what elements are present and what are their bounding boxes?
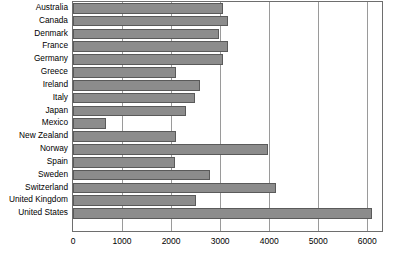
bar	[73, 106, 186, 117]
category-label: Sweden	[0, 168, 70, 181]
category-label: United Kingdom	[0, 193, 70, 206]
bar-row	[73, 92, 382, 105]
category-label: Norway	[0, 142, 70, 155]
x-tick-label: 3000	[211, 236, 230, 246]
bar	[73, 170, 210, 181]
bar	[73, 131, 176, 142]
bar	[73, 41, 228, 52]
category-label: Denmark	[0, 27, 70, 40]
bar-row	[73, 169, 382, 182]
bar	[73, 144, 268, 155]
bar-row	[73, 53, 382, 66]
bar	[73, 29, 219, 40]
category-label: Mexico	[0, 116, 70, 129]
bar-row	[73, 207, 382, 220]
category-label: Ireland	[0, 78, 70, 91]
category-label: Australia	[0, 1, 70, 14]
x-tick-label: 2000	[162, 236, 181, 246]
bar	[73, 93, 195, 104]
bar	[73, 67, 176, 78]
bar	[73, 208, 372, 219]
category-axis-labels: AustraliaCanadaDenmarkFranceGermanyGreec…	[0, 1, 70, 232]
bar-row	[73, 28, 382, 41]
category-label: United States	[0, 206, 70, 219]
bar	[73, 80, 200, 91]
category-label: Italy	[0, 91, 70, 104]
category-label: Switzerland	[0, 181, 70, 194]
category-label: Germany	[0, 52, 70, 65]
bar-row	[73, 143, 382, 156]
category-label: Spain	[0, 155, 70, 168]
bar-row	[73, 156, 382, 169]
bar-row	[73, 130, 382, 143]
category-label: Canada	[0, 14, 70, 27]
x-tick-label: 0	[71, 236, 76, 246]
x-tick-label: 4000	[260, 236, 279, 246]
bar	[73, 16, 228, 27]
bar-row	[73, 117, 382, 130]
category-label: France	[0, 39, 70, 52]
bar-row	[73, 66, 382, 79]
bar-row	[73, 194, 382, 207]
bar-row	[73, 2, 382, 15]
x-tick-label: 5000	[309, 236, 328, 246]
bar-row	[73, 105, 382, 118]
category-label: Japan	[0, 104, 70, 117]
bar-row	[73, 15, 382, 28]
x-tick-label: 6000	[358, 236, 377, 246]
category-label: Greece	[0, 65, 70, 78]
bar-row	[73, 40, 382, 53]
x-tick-label: 1000	[113, 236, 132, 246]
bar	[73, 183, 276, 194]
category-label: New Zealand	[0, 129, 70, 142]
bar	[73, 118, 106, 129]
bar	[73, 195, 196, 206]
bars-container	[73, 2, 382, 220]
x-axis: 0100020003000400050006000	[72, 232, 383, 254]
bar-row	[73, 79, 382, 92]
bar	[73, 3, 223, 14]
bar-row	[73, 182, 382, 195]
bar	[73, 157, 175, 168]
plot-area	[72, 1, 383, 232]
bar	[73, 54, 223, 65]
bar-chart: AustraliaCanadaDenmarkFranceGermanyGreec…	[0, 0, 405, 255]
